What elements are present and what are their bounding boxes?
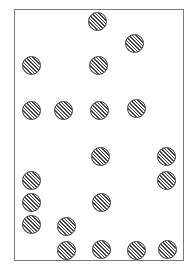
hatched-circle-icon [22,101,41,120]
hatched-circle-icon [157,147,176,166]
hatched-circle-icon [90,101,109,120]
hatched-circle-icon [89,56,108,75]
hatched-circle-icon [157,171,176,190]
hatched-circle-icon [125,34,144,53]
hatched-circle-icon [22,171,41,190]
hatched-circle-icon [158,240,177,259]
hatched-circle-icon [57,217,76,236]
hatched-circle-icon [92,240,111,259]
hatched-circle-icon [88,12,107,31]
hatched-circle-icon [92,193,111,212]
hatched-circle-icon [91,147,110,166]
dot-field [0,0,196,272]
hatched-circle-icon [127,99,146,118]
hatched-circle-icon [54,101,73,120]
hatched-circle-icon [127,241,146,260]
hatched-circle-icon [22,215,41,234]
hatched-circle-icon [22,193,41,212]
hatched-circle-icon [22,56,41,75]
hatched-circle-icon [57,241,76,260]
